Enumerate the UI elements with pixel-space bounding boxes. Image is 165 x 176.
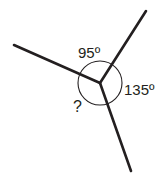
angle-label-unknown: ?: [73, 99, 82, 115]
angle-label-top: 95º: [78, 45, 100, 60]
angle-label-right: 135º: [124, 82, 155, 97]
upper-right-ray: [100, 11, 146, 83]
angle-diagram: 95º 135º ?: [0, 0, 165, 176]
